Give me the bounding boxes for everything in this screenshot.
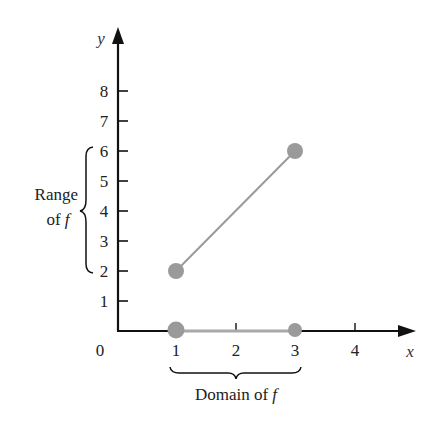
function-domain-range-diagram: 1 2 3 4 5 6 7 8 0 1 2 3 4 y x Range of f [0,0,442,425]
y-axis-label: y [95,29,105,48]
y-tick-label: 2 [100,262,109,281]
x-tick-labels: 0 1 2 3 4 [96,341,360,360]
domain-endpoint-marker [168,322,185,339]
y-tick-label: 7 [100,112,109,131]
y-tick-label: 8 [100,82,109,101]
y-tick-label: 6 [100,142,109,161]
endpoint-marker [168,263,184,279]
x-tick-label: 3 [291,341,300,360]
y-ticks [118,91,128,301]
range-brace-icon [80,147,93,273]
domain-endpoint-marker [288,323,302,337]
y-tick-label: 3 [100,232,109,251]
function-graph [168,143,303,279]
y-tick-label: 5 [100,172,109,191]
domain-label: Domain of f [195,385,279,404]
domain-f-symbol: f [272,385,279,404]
range-of-text: of [46,210,64,229]
y-axis-arrow-icon [112,27,124,44]
function-segment [176,151,295,271]
domain-text: Domain of [195,385,272,404]
y-tick-label: 1 [100,292,109,311]
range-label-line1: Range [35,185,78,204]
x-axis-arrow-icon [398,325,416,337]
y-tick-labels: 1 2 3 4 5 6 7 8 [100,82,109,311]
y-tick-label: 4 [100,202,109,221]
x-tick-label: 1 [172,341,181,360]
x-tick-label: 4 [351,341,360,360]
x-axis-label: x [405,342,414,361]
domain-brace-icon [170,367,301,379]
range-f-symbol: f [65,210,72,229]
endpoint-marker [287,143,303,159]
x-tick-label: 2 [232,341,241,360]
range-label-line2: of f [46,210,71,229]
origin-label: 0 [96,341,105,360]
domain-projection [168,322,303,339]
